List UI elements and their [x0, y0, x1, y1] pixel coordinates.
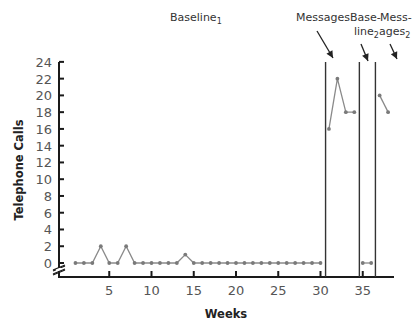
- y-tick-label: 0: [44, 256, 52, 271]
- data-point: [82, 261, 86, 265]
- series-line-messages: [329, 79, 354, 129]
- data-point: [327, 127, 331, 131]
- x-tick-label: 20: [228, 283, 245, 298]
- phase-labels: Baseline1 Messages Base- line2 Mess- age…: [170, 11, 412, 40]
- phase-label-messages2-line2: ages2: [379, 25, 410, 40]
- phase-label-messages: Messages: [296, 11, 350, 24]
- data-point: [175, 261, 179, 265]
- data-point: [226, 261, 230, 265]
- data-point: [99, 244, 103, 248]
- y-axis: 024681012141618202224: [35, 55, 65, 277]
- data-point: [251, 261, 255, 265]
- data-point: [209, 261, 213, 265]
- phase-label-baseline2-line2: line2: [354, 25, 379, 40]
- y-tick-label: 18: [35, 105, 52, 120]
- phase-label-baseline2-line1: Base-: [350, 11, 381, 24]
- data-point: [200, 261, 204, 265]
- data-point: [107, 261, 111, 265]
- data-point: [74, 261, 78, 265]
- data-point: [378, 94, 382, 98]
- data-point: [141, 261, 145, 265]
- x-tick-label: 25: [270, 283, 287, 298]
- y-tick-label: 8: [44, 189, 52, 204]
- x-tick-label: 5: [105, 283, 113, 298]
- y-tick-label: 16: [35, 122, 52, 137]
- data-point: [259, 261, 263, 265]
- data-point: [386, 110, 390, 114]
- phase-label-messages2-line1: Mess-: [380, 11, 412, 24]
- single-case-chart: Baseline1 Messages Base- line2 Mess- age…: [0, 0, 416, 327]
- data-point: [183, 253, 187, 257]
- data-point: [352, 110, 356, 114]
- data-point: [268, 261, 272, 265]
- y-tick-label: 20: [35, 88, 52, 103]
- y-tick-label: 10: [35, 172, 52, 187]
- data-series: [74, 77, 390, 265]
- data-point: [243, 261, 247, 265]
- y-tick-label: 14: [35, 139, 52, 154]
- y-axis-title: Telephone Calls: [12, 119, 26, 220]
- y-tick-label: 12: [35, 155, 52, 170]
- data-point: [336, 77, 340, 81]
- data-point: [293, 261, 297, 265]
- data-point: [361, 261, 365, 265]
- data-point: [158, 261, 162, 265]
- data-point: [369, 261, 373, 265]
- x-tick-label: 10: [143, 283, 160, 298]
- series-line-baseline1: [75, 246, 320, 263]
- phase-change-lines: [326, 62, 376, 277]
- y-tick-label: 24: [35, 55, 52, 70]
- x-tick-label: 15: [185, 283, 202, 298]
- y-tick-label: 6: [44, 206, 52, 221]
- x-tick-label: 35: [354, 283, 371, 298]
- data-point: [167, 261, 171, 265]
- data-point: [234, 261, 238, 265]
- data-point: [319, 261, 323, 265]
- data-point: [276, 261, 280, 265]
- y-tick-label: 22: [35, 72, 52, 87]
- data-point: [116, 261, 120, 265]
- x-tick-label: 30: [312, 283, 329, 298]
- x-axis: 5101520253035: [58, 271, 394, 298]
- data-point: [124, 244, 128, 248]
- data-point: [90, 261, 94, 265]
- x-axis-title: Weeks: [205, 307, 248, 321]
- data-point: [217, 261, 221, 265]
- data-point: [310, 261, 314, 265]
- data-point: [133, 261, 137, 265]
- data-point: [285, 261, 289, 265]
- data-point: [192, 261, 196, 265]
- phase-label-baseline1: Baseline1: [170, 11, 222, 26]
- data-point: [344, 110, 348, 114]
- data-point: [150, 261, 154, 265]
- series-line-messages2: [380, 95, 388, 112]
- data-point: [302, 261, 306, 265]
- y-tick-label: 4: [44, 222, 52, 237]
- y-tick-label: 2: [44, 239, 52, 254]
